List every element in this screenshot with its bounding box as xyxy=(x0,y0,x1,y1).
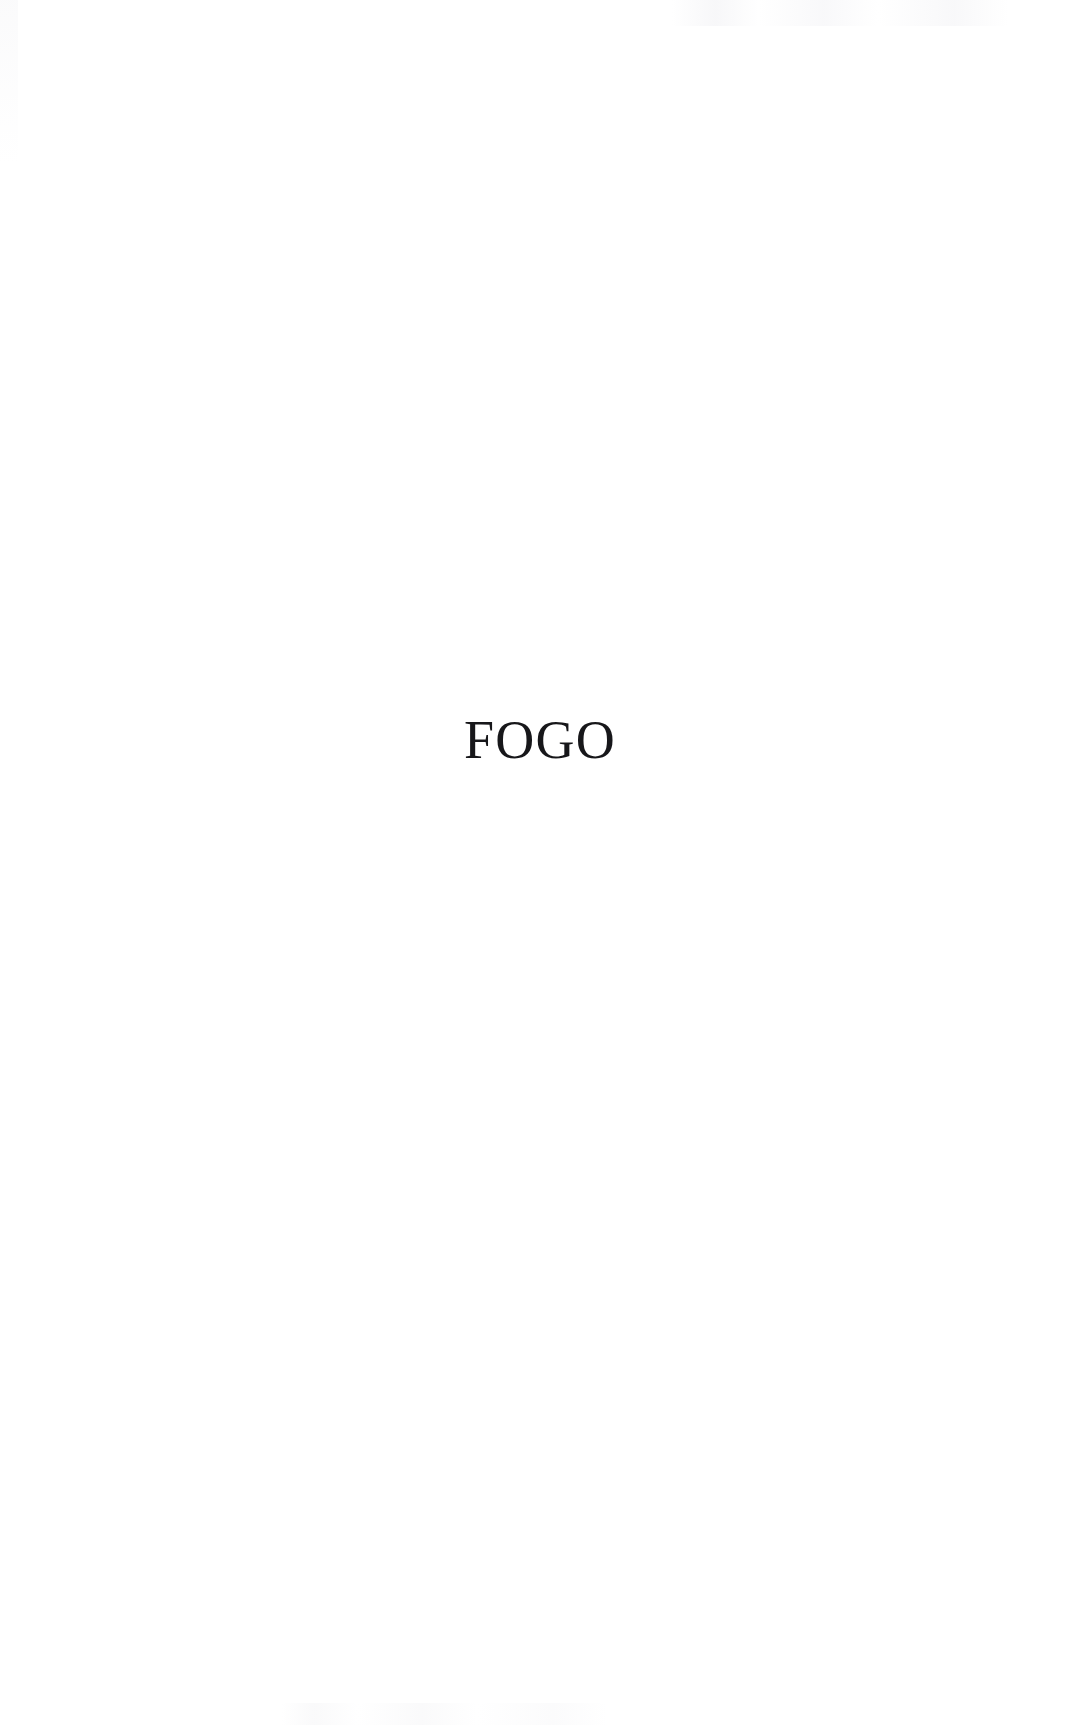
half-title-block: FOGO xyxy=(0,0,1084,1725)
page-title: FOGO xyxy=(464,713,616,767)
half-title-inner: FOGO xyxy=(464,713,616,767)
scanned-page: FOGO xyxy=(0,0,1084,1725)
